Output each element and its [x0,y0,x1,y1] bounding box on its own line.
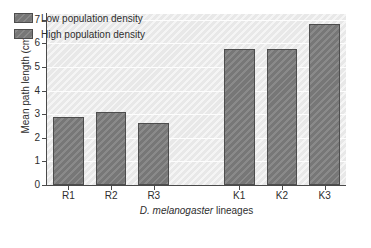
legend-item-1: Low population density [14,11,145,25]
y-tick-mark [42,91,46,92]
y-tick-mark [42,67,46,68]
y-tick-mark [42,161,46,162]
x-tick-label-k3: K3 [308,190,342,201]
bar-k1 [224,49,255,185]
bar-k3 [309,24,340,185]
bar-r2 [96,112,127,185]
x-tick-label-r3: R3 [137,190,171,201]
bar-chart-figure: 01234567 R1R2R3K1K2K3 Mean path length (… [0,0,371,248]
legend-label: Low population density [41,13,143,24]
x-axis-line [46,185,346,186]
y-tick-mark [42,114,46,115]
y-tick-mark [42,138,46,139]
x-axis-title: D. melanogaster lineages [47,205,346,216]
legend-item-2: High population density [14,27,145,41]
x-axis-title-species: D. melanogaster [140,205,213,216]
x-tick-label-r2: R2 [94,190,128,201]
x-tick-label-r1: R1 [51,190,85,201]
bar-r1 [53,117,84,185]
x-tick-label-k1: K1 [222,190,256,201]
legend-swatch-icon [14,29,33,39]
y-tick-label: 0 [14,180,40,190]
legend-label: High population density [41,29,145,40]
x-tick-label-k2: K2 [265,190,299,201]
legend: Low population densityHigh population de… [14,11,145,43]
caption-sliver [0,243,371,248]
y-tick-mark [42,43,46,44]
y-tick-mark [42,185,46,186]
legend-swatch-icon [14,13,33,23]
bar-k2 [267,49,298,185]
bar-r3 [138,123,169,186]
x-axis-title-suffix: lineages [216,205,253,216]
